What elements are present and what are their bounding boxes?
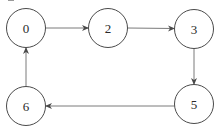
node-5-label: 5 xyxy=(191,97,198,112)
node-2[interactable]: 2 xyxy=(89,9,128,48)
node-3-label: 3 xyxy=(191,22,198,37)
node-0-label: 0 xyxy=(23,21,30,36)
node-2-label: 2 xyxy=(105,21,112,36)
directed-graph: 0 2 3 5 6 xyxy=(0,0,217,129)
nodes-group: 0 2 3 5 6 xyxy=(7,9,214,126)
node-3[interactable]: 3 xyxy=(175,10,214,49)
node-6[interactable]: 6 xyxy=(7,87,46,126)
edge-2-to-3 xyxy=(128,28,175,29)
node-0[interactable]: 0 xyxy=(7,9,46,48)
node-5[interactable]: 5 xyxy=(175,85,214,124)
node-6-label: 6 xyxy=(23,99,30,114)
